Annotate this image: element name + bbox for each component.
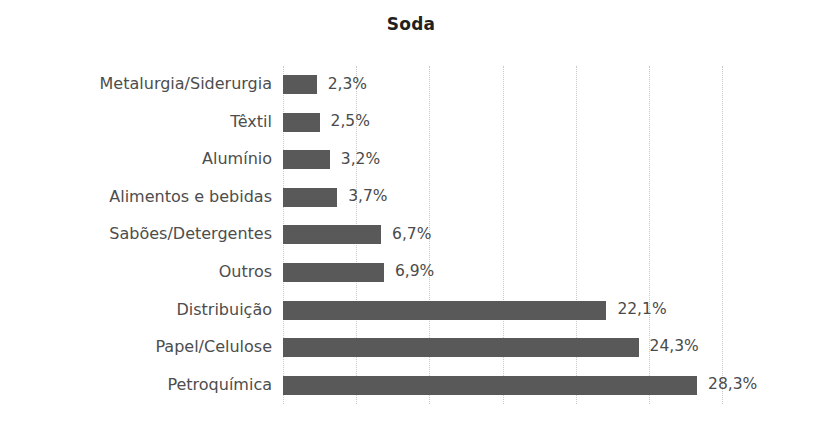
bar-row: 3,2% bbox=[283, 141, 822, 179]
category-label: Alumínio bbox=[0, 141, 272, 179]
bar-row: 24,3% bbox=[283, 329, 822, 367]
bar-value-label: 2,3% bbox=[328, 77, 367, 94]
bar-row: 22,1% bbox=[283, 291, 822, 329]
bar-row: 2,3% bbox=[283, 66, 822, 104]
category-label: Papel/Celulose bbox=[0, 329, 272, 367]
bar bbox=[283, 263, 384, 282]
bar bbox=[283, 113, 320, 132]
bar-row: 3,7% bbox=[283, 179, 822, 217]
category-label: Distribuição bbox=[0, 291, 272, 329]
bar-value-label: 22,1% bbox=[617, 302, 666, 319]
bar-value-label: 24,3% bbox=[650, 339, 699, 356]
bar-value-label: 6,7% bbox=[392, 227, 431, 244]
bar-value-label: 6,9% bbox=[395, 264, 434, 281]
bar bbox=[283, 225, 381, 244]
category-label: Têxtil bbox=[0, 104, 272, 142]
category-label: Outros bbox=[0, 254, 272, 292]
bar-row: 2,5% bbox=[283, 104, 822, 142]
bar bbox=[283, 75, 317, 94]
bar bbox=[283, 150, 330, 169]
bar-value-label: 2,5% bbox=[331, 114, 370, 131]
category-axis: Metalurgia/SiderurgiaTêxtilAlumínioAlime… bbox=[0, 66, 272, 404]
category-label: Petroquímica bbox=[0, 366, 272, 404]
bar-row: 28,3% bbox=[283, 366, 822, 404]
bars-container: 2,3%2,5%3,2%3,7%6,7%6,9%22,1%24,3%28,3% bbox=[283, 66, 822, 404]
bar-value-label: 3,7% bbox=[348, 189, 387, 206]
bar bbox=[283, 301, 606, 320]
bar-row: 6,7% bbox=[283, 216, 822, 254]
category-label: Metalurgia/Siderurgia bbox=[0, 66, 272, 104]
bar bbox=[283, 338, 639, 357]
category-label: Sabões/Detergentes bbox=[0, 216, 272, 254]
bar-value-label: 28,3% bbox=[708, 377, 757, 394]
bar bbox=[283, 188, 337, 207]
bar-chart: Soda Metalurgia/SiderurgiaTêxtilAlumínio… bbox=[0, 0, 822, 429]
bar-row: 6,9% bbox=[283, 254, 822, 292]
chart-title: Soda bbox=[0, 14, 822, 34]
category-label: Alimentos e bebidas bbox=[0, 179, 272, 217]
bar bbox=[283, 376, 697, 395]
bar-value-label: 3,2% bbox=[341, 152, 380, 169]
